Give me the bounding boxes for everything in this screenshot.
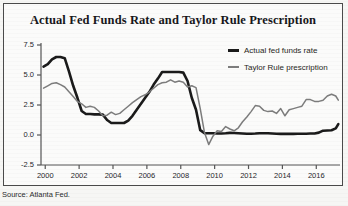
x-axis-tick-label: 2008 <box>166 171 196 180</box>
legend-label-taylor: Taylor Rule prescription <box>244 63 328 72</box>
x-axis-tick-label: 2004 <box>98 171 128 180</box>
y-axis-tick-label: 0.0 <box>10 130 34 139</box>
legend-label-actual: Actual fed funds rate <box>244 46 317 55</box>
y-axis-tick-label: 5.0 <box>10 70 34 79</box>
y-axis-tick-label: 2.5 <box>10 100 34 109</box>
x-axis-tick-label: 2010 <box>200 171 230 180</box>
figure-container: Actual Fed Funds Rate and Taylor Rule Pr… <box>0 0 348 206</box>
x-axis-tick-label: 2016 <box>301 171 331 180</box>
chart-plot-area <box>3 3 343 186</box>
y-axis-tick-label: -2.5 <box>10 160 34 169</box>
chart-legend: Actual fed funds rate Taylor Rule prescr… <box>228 43 344 77</box>
x-axis-tick-label: 2012 <box>234 171 264 180</box>
legend-line-marker-icon <box>228 66 239 68</box>
legend-line-marker-icon <box>228 49 239 52</box>
x-axis-tick-label: 2000 <box>30 171 60 180</box>
legend-item-taylor: Taylor Rule prescription <box>228 60 344 74</box>
x-axis-tick-label: 2014 <box>267 171 297 180</box>
legend-item-actual: Actual fed funds rate <box>228 43 344 57</box>
x-axis-tick-label: 2002 <box>64 171 94 180</box>
x-axis-tick-label: 2006 <box>132 171 162 180</box>
y-axis-tick-label: 7.5 <box>10 40 34 49</box>
source-note: Source: Atlanta Fed. <box>2 190 70 199</box>
